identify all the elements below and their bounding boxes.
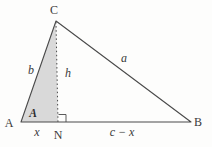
altitude-label-h: h [65,66,71,80]
side-label-a: a [121,51,127,65]
vertex-label-A: A [5,116,14,130]
vertex-label-N: N [54,128,63,142]
right-angle-mark [59,115,67,123]
triangle-altitude-diagram: C A B N b h a x c − x A [0,0,212,147]
vertex-label-B: B [194,115,202,129]
segment-label-x: x [33,125,40,139]
angle-label-A: A [28,107,37,119]
diagram-svg: C A B N b h a x c − x A [0,0,212,147]
side-label-b: b [28,63,34,77]
vertex-label-C: C [50,3,58,17]
segment-label-c-minus-x: c − x [110,125,135,139]
